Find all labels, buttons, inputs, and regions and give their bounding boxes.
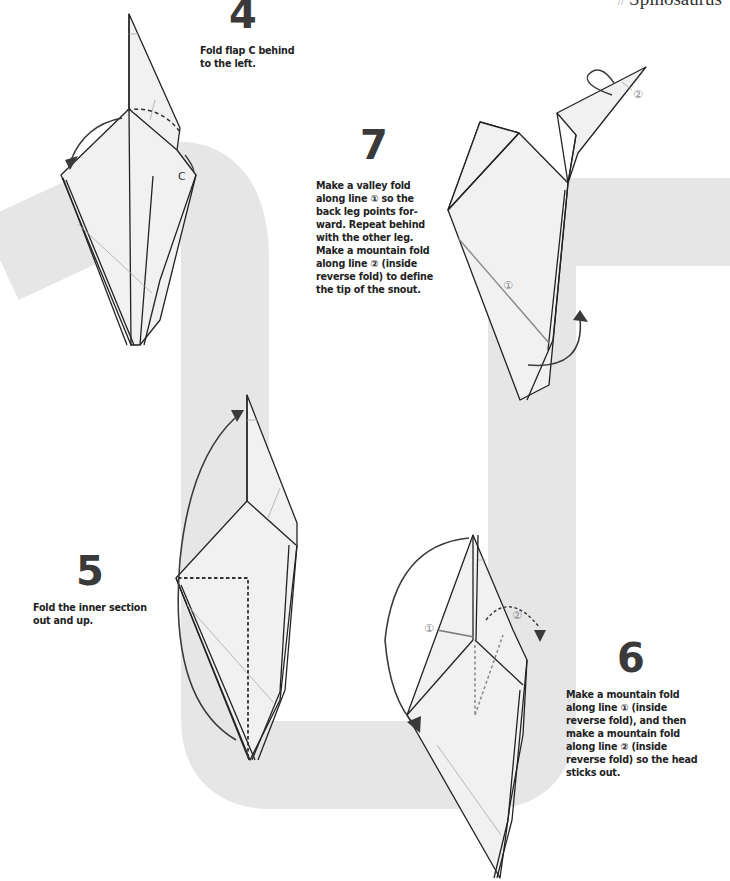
page-header: // Spinosaurus (618, 0, 722, 10)
step-7-number: 7 (360, 125, 388, 165)
diagram-step-5 (176, 395, 297, 760)
header-title: Spinosaurus (629, 0, 722, 9)
step-7-text: Make a valley fold along line ① so the b… (316, 179, 433, 296)
svg-text:②: ② (633, 88, 643, 101)
diagram-step-4 (61, 14, 196, 345)
diagram-step-6 (385, 535, 546, 878)
flap-c-label: C (178, 170, 186, 183)
step-6-number: 6 (617, 638, 645, 678)
svg-text:①: ① (503, 279, 513, 292)
svg-text:①: ① (424, 622, 434, 635)
step-6-text: Make a mountain fold along line ① (insid… (566, 688, 698, 779)
step-5-number: 5 (76, 551, 104, 591)
diagram-step-7 (448, 67, 646, 400)
step-4-number: 4 (229, 0, 257, 34)
svg-text:②: ② (512, 609, 522, 622)
header-prefix: // (618, 0, 625, 8)
step-5-text: Fold the inner section out and up. (33, 601, 147, 627)
step-4-text: Fold flap C behind to the left. (200, 44, 294, 70)
